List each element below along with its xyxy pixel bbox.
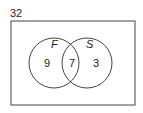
f-only-count: 9: [44, 57, 50, 69]
venn-diagram: 32 F S 9 7 3: [0, 0, 143, 113]
set-f-label: F: [51, 38, 59, 50]
intersection-count: 7: [69, 57, 75, 69]
set-s-label: S: [86, 38, 94, 50]
s-only-count: 3: [93, 57, 99, 69]
universal-total-label: 32: [10, 7, 22, 19]
